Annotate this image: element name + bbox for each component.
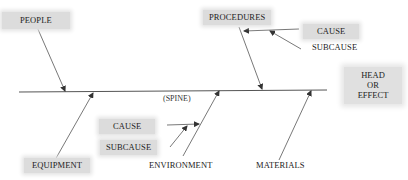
materials-bone <box>279 91 311 160</box>
category-materials: MATERIALS <box>250 158 311 173</box>
category-environment: ENVIRONMENT <box>143 158 218 173</box>
bottom-subcause-label: SUBCAUSE <box>100 140 157 155</box>
spine-label: (SPINE) <box>163 94 191 103</box>
bottom-subcause-arrow <box>170 126 187 147</box>
head-line-3: EFFECT <box>344 90 402 100</box>
bottom-cause-label: CAUSE <box>99 119 155 134</box>
equipment-bone <box>55 93 93 160</box>
people-bone <box>37 27 65 91</box>
head-line-2: OR <box>344 80 402 90</box>
spine-line <box>19 90 327 92</box>
top-subcause-label: SUBCAUSE <box>306 40 363 55</box>
fishbone-diagram: PEOPLE PROCEDURES CAUSE SUBCAUSE HEAD OR… <box>0 0 408 180</box>
top-cause-arrow <box>244 29 299 31</box>
category-people: PEOPLE <box>2 12 70 29</box>
head-effect-box: HEAD OR EFFECT <box>344 67 402 104</box>
category-procedures: PROCEDURES <box>203 10 271 25</box>
procedures-bone <box>239 27 262 89</box>
bottom-cause-arrow <box>167 124 199 125</box>
category-equipment: EQUIPMENT <box>24 158 90 173</box>
top-subcause-arrow <box>270 31 301 49</box>
head-line-1: HEAD <box>344 70 402 80</box>
top-cause-label: CAUSE <box>303 24 359 39</box>
